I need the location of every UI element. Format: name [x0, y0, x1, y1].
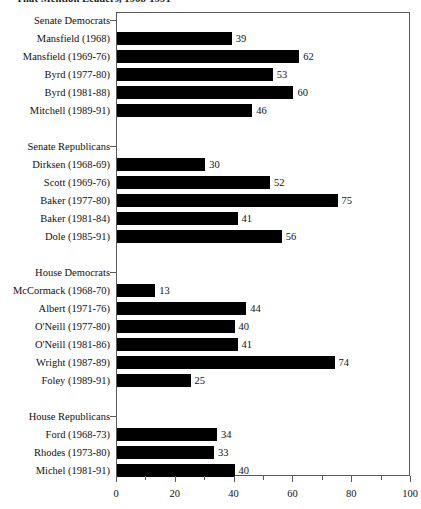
group-label: Senate Democrats — [0, 14, 110, 27]
group-axis-tick — [110, 146, 117, 147]
x-axis-minor-tick — [204, 476, 205, 480]
bar — [117, 176, 270, 189]
bar-row: O'Neill (1977-80)40 — [0, 318, 421, 336]
bar-row-label: Mansfield (1969-76) — [0, 50, 110, 63]
x-axis: 020406080100 — [116, 476, 410, 509]
bar-value-label: 56 — [286, 231, 297, 243]
bar-value-label: 13 — [159, 285, 170, 297]
bar-value-label: 62 — [303, 51, 314, 63]
group-label: Senate Republicans — [0, 140, 110, 153]
bar-row: McCormack (1968-70)13 — [0, 282, 421, 300]
bar-value-label: 30 — [209, 159, 220, 171]
bar-value-label: 75 — [342, 195, 353, 207]
page-title: That Mention Leaders, 1968-1991 — [16, 0, 171, 4]
bar-row-label: Dirksen (1968-69) — [0, 158, 110, 171]
x-axis-tick — [116, 476, 117, 482]
bar-row: Byrd (1977-80)53 — [0, 66, 421, 84]
bar-row-label: Baker (1981-84) — [0, 212, 110, 225]
bar-row-label: Mitchell (1989-91) — [0, 104, 110, 117]
group-axis-tick — [110, 272, 117, 273]
bar — [117, 230, 282, 243]
bar-row: Scott (1969-76)52 — [0, 174, 421, 192]
bar — [117, 68, 273, 81]
bar — [117, 356, 335, 369]
bar-row-label: O'Neill (1977-80) — [0, 320, 110, 333]
x-axis-tick — [410, 476, 411, 482]
x-axis-tick — [351, 476, 352, 482]
bar-row-label: Wright (1987-89) — [0, 356, 110, 369]
bar — [117, 158, 205, 171]
group-label: House Republicans — [0, 410, 110, 423]
x-axis-tick-label: 100 — [402, 488, 418, 500]
bar-value-label: 33 — [218, 447, 229, 459]
bar-row: Byrd (1981-88)60 — [0, 84, 421, 102]
group-axis-tick — [110, 20, 117, 21]
bar-row-label: Dole (1985-91) — [0, 230, 110, 243]
bar-row-label: Mansfield (1968) — [0, 32, 110, 45]
bar — [117, 50, 299, 63]
x-axis-tick — [175, 476, 176, 482]
x-axis-minor-tick — [381, 476, 382, 480]
bar-row: Dirksen (1968-69)30 — [0, 156, 421, 174]
bar-value-label: 46 — [256, 105, 267, 117]
bar-row-label: Baker (1977-80) — [0, 194, 110, 207]
x-axis-minor-tick — [145, 476, 146, 480]
bar-value-label: 40 — [239, 321, 250, 333]
x-axis-minor-tick — [263, 476, 264, 480]
bar-row: O'Neill (1981-86)41 — [0, 336, 421, 354]
bar-row: Mansfield (1968)39 — [0, 30, 421, 48]
bar-value-label: 25 — [195, 375, 206, 387]
bar — [117, 374, 191, 387]
bar — [117, 32, 232, 45]
bar-row-label: Byrd (1981-88) — [0, 86, 110, 99]
x-axis-tick-label: 0 — [113, 488, 118, 500]
bar-row: Rhodes (1973-80)33 — [0, 444, 421, 462]
bar-rows-container: Senate DemocratsMansfield (1968)39Mansfi… — [0, 12, 421, 476]
bar-value-label: 41 — [242, 213, 253, 225]
x-axis-minor-tick — [322, 476, 323, 480]
bar — [117, 320, 235, 333]
bar-value-label: 44 — [250, 303, 261, 315]
bar-row: Foley (1989-91)25 — [0, 372, 421, 390]
bar-row-label: Scott (1969-76) — [0, 176, 110, 189]
group-header-row: House Republicans — [0, 408, 421, 426]
bar-row-label: Ford (1968-73) — [0, 428, 110, 441]
bar — [117, 428, 217, 441]
bar-row-label: McCormack (1968-70) — [0, 284, 110, 297]
x-axis-tick-label: 20 — [170, 488, 181, 500]
group-header-row: House Democrats — [0, 264, 421, 282]
bar-row: Baker (1977-80)75 — [0, 192, 421, 210]
bar — [117, 302, 246, 315]
bar — [117, 212, 238, 225]
bar-row-label: Rhodes (1973-80) — [0, 446, 110, 459]
bar-row-label: O'Neill (1981-86) — [0, 338, 110, 351]
bar — [117, 446, 214, 459]
bar-row: Dole (1985-91)56 — [0, 228, 421, 246]
bar-row: Mansfield (1969-76)62 — [0, 48, 421, 66]
bar-row: Albert (1971-76)44 — [0, 300, 421, 318]
bar-value-label: 53 — [277, 69, 288, 81]
bar-value-label: 34 — [221, 429, 232, 441]
bar — [117, 194, 338, 207]
x-axis-tick — [292, 476, 293, 482]
bar-value-label: 39 — [236, 33, 247, 45]
bar-value-label: 74 — [339, 357, 350, 369]
bar-row-label: Michel (1981-91) — [0, 464, 110, 477]
x-axis-tick — [234, 476, 235, 482]
bar-row-label: Byrd (1977-80) — [0, 68, 110, 81]
bar-value-label: 60 — [297, 87, 308, 99]
bar-row: Ford (1968-73)34 — [0, 426, 421, 444]
bar — [117, 104, 252, 117]
group-label: House Democrats — [0, 266, 110, 279]
group-axis-tick — [110, 416, 117, 417]
bar — [117, 338, 238, 351]
bar-value-label: 52 — [274, 177, 285, 189]
bar-row-label: Foley (1989-91) — [0, 374, 110, 387]
bar-value-label: 41 — [242, 339, 253, 351]
bar-row: Wright (1987-89)74 — [0, 354, 421, 372]
x-axis-tick-label: 60 — [287, 488, 298, 500]
bar-row: Baker (1981-84)41 — [0, 210, 421, 228]
bar-row: Mitchell (1989-91)46 — [0, 102, 421, 120]
bar — [117, 86, 293, 99]
bar-row-label: Albert (1971-76) — [0, 302, 110, 315]
